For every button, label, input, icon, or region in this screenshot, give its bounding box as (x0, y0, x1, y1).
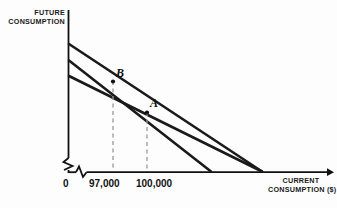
point-marker-a (145, 110, 149, 114)
x-axis-arrow-icon (327, 168, 334, 176)
x-tick-label-100000: 100,000 (136, 178, 172, 189)
point-label-b: B (116, 66, 124, 81)
original-budget-line (69, 44, 262, 172)
x-axis-title: CURRENT CONSUMPTION ($) (268, 176, 334, 194)
y-axis-title: FUTURE CONSUMPTION (8, 8, 65, 26)
x-axis-break-icon (76, 167, 87, 178)
y-axis-title-line1: FUTURE (8, 8, 65, 17)
point-marker-b (111, 79, 115, 83)
economics-budget-line-figure: FUTURE CONSUMPTION CURRENT CONSUMPTION (… (0, 0, 337, 208)
y-axis-break-icon (64, 158, 73, 170)
x-tick-label-97000: 97,000 (89, 178, 120, 189)
point-label-a: A (150, 96, 158, 111)
x-axis-title-line1: CURRENT (268, 176, 334, 185)
flatter-budget-line (69, 76, 262, 172)
x-tick-label-origin: 0 (63, 178, 69, 189)
steeper-budget-line (69, 61, 211, 172)
y-axis-title-line2: CONSUMPTION (8, 17, 65, 26)
x-axis-title-line2: CONSUMPTION ($) (268, 185, 334, 194)
